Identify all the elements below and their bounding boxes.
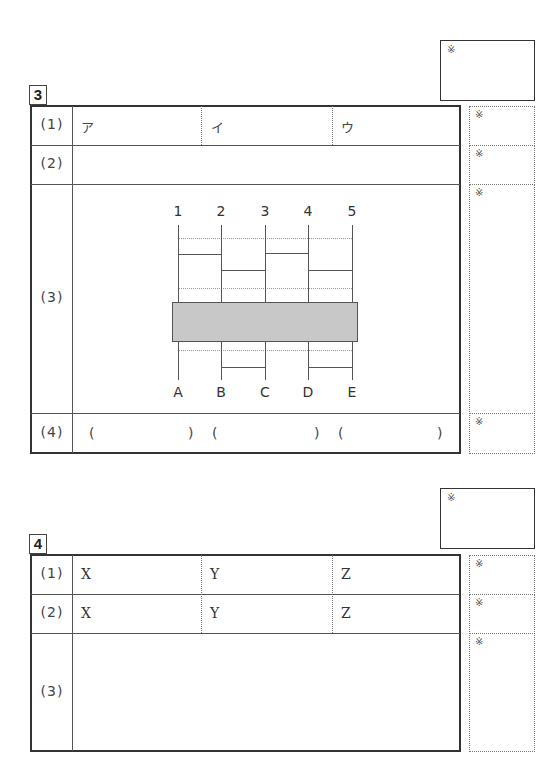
close-paren: ) — [437, 425, 442, 441]
q3-row-label-4: (4) — [32, 424, 72, 440]
mark-symbol: ※ — [475, 597, 483, 608]
q4-2-answer-y[interactable]: Y — [202, 595, 332, 633]
q3-row-label-1: (1) — [32, 116, 72, 132]
q3-4-score-box[interactable]: ※ — [469, 413, 535, 454]
diagram-rung-4-5 — [308, 270, 353, 271]
diagram-top-label-4: 4 — [300, 203, 316, 219]
cell-label-x: X — [81, 605, 91, 621]
diagram-rung-2-3 — [221, 270, 266, 271]
mark-symbol: ※ — [475, 416, 483, 427]
close-paren: ) — [314, 425, 319, 441]
open-paren: ( — [212, 425, 217, 441]
diagram-hidden-region — [172, 302, 358, 342]
q4-3-answer[interactable] — [73, 634, 460, 751]
q4-row-label-3: (3) — [32, 683, 72, 699]
q3-1-score-box[interactable]: ※ — [469, 106, 535, 146]
q3-4-answer-3[interactable]: ( ) — [336, 414, 451, 453]
cell-label-u: ウ — [341, 117, 354, 136]
open-paren: ( — [338, 425, 343, 441]
mark-symbol: ※ — [475, 148, 483, 159]
cell-label-x: X — [81, 566, 91, 582]
diagram-bottom-label-C: C — [257, 384, 273, 400]
q3-2-score-box[interactable]: ※ — [469, 145, 535, 185]
close-paren: ) — [188, 425, 193, 441]
q3-4-answer-1[interactable]: ( ) — [85, 414, 200, 453]
diagram-top-label-1: 1 — [170, 203, 186, 219]
cell-label-i: イ — [211, 117, 224, 136]
q4-row-label-1: (1) — [32, 565, 72, 581]
diagram-bottom-label-E: E — [344, 384, 360, 400]
cell-label-a: ア — [81, 117, 94, 136]
cell-label-z: Z — [341, 566, 351, 582]
q4-1-answer-y[interactable]: Y — [202, 555, 332, 594]
q4-number: 4 — [29, 534, 47, 554]
diagram-bottom-label-A: A — [170, 384, 186, 400]
diagram-rung-1-2 — [178, 254, 222, 255]
mark-symbol: ※ — [475, 109, 483, 120]
diagram-rung-D-E — [308, 367, 353, 368]
q4-3-score-box[interactable]: ※ — [469, 633, 535, 752]
cell-label-y: Y — [210, 566, 219, 582]
diagram-rung-B-C — [221, 367, 266, 368]
q3-row-label-2: (2) — [32, 155, 72, 171]
q4-1-answer-z[interactable]: Z — [333, 555, 460, 594]
q3-total-score-box[interactable]: ※ — [440, 40, 535, 101]
q3-3-diagram-area[interactable] — [73, 185, 460, 413]
q3-number: 3 — [29, 85, 47, 105]
cell-label-y: Y — [210, 605, 219, 621]
open-paren: ( — [89, 425, 94, 441]
q4-2-answer-z[interactable]: Z — [333, 595, 460, 633]
cell-label-z: Z — [341, 605, 351, 621]
q4-1-score-box[interactable]: ※ — [469, 555, 535, 595]
q3-1-answer-i[interactable]: イ — [202, 106, 332, 145]
diagram-bottom-label-B: B — [213, 384, 229, 400]
mark-symbol: ※ — [475, 187, 483, 198]
q4-2-score-box[interactable]: ※ — [469, 594, 535, 634]
diagram-top-label-3: 3 — [257, 203, 273, 219]
q4-2-answer-x[interactable]: X — [73, 595, 201, 633]
q3-3-score-box[interactable]: ※ — [469, 184, 535, 414]
q3-row-label-3: (3) — [32, 289, 72, 305]
q3-1-answer-u[interactable]: ウ — [333, 106, 460, 145]
diagram-rung-3-4 — [265, 253, 309, 254]
q4-1-answer-x[interactable]: X — [73, 555, 201, 594]
diagram-top-label-5: 5 — [344, 203, 360, 219]
q4-total-score-box[interactable]: ※ — [440, 488, 535, 549]
q3-1-answer-a[interactable]: ア — [73, 106, 201, 145]
mark-symbol: ※ — [447, 492, 455, 503]
mark-symbol: ※ — [475, 558, 483, 569]
diagram-bottom-label-D: D — [300, 384, 316, 400]
q3-2-answer[interactable] — [73, 146, 460, 184]
mark-symbol: ※ — [475, 636, 483, 647]
q4-row-label-2: (2) — [32, 604, 72, 620]
mark-symbol: ※ — [447, 44, 455, 55]
q3-4-answer-2[interactable]: ( ) — [210, 414, 325, 453]
diagram-top-label-2: 2 — [213, 203, 229, 219]
